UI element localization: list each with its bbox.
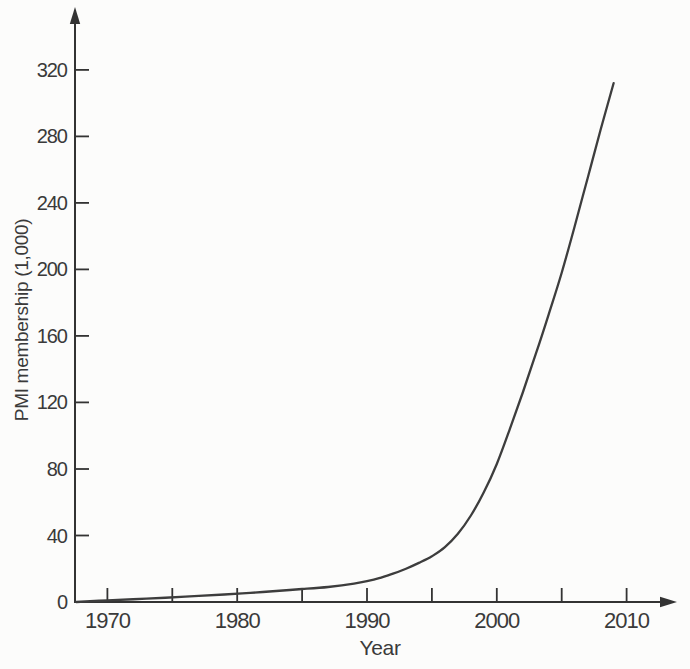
membership-curve xyxy=(76,83,613,602)
y-tick-label: 280 xyxy=(37,125,68,147)
pmi-membership-line-chart: 1970198019902000201004080120160200240280… xyxy=(0,0,690,669)
x-tick-label: 1990 xyxy=(345,608,391,633)
y-axis-arrow-icon xyxy=(70,7,80,24)
axes xyxy=(70,7,677,607)
x-tick-label: 2000 xyxy=(474,608,520,633)
x-tick-label: 1980 xyxy=(215,608,261,633)
x-tick-label: 2010 xyxy=(604,608,650,633)
y-tick-label: 120 xyxy=(37,391,68,413)
y-tick-label: 320 xyxy=(37,59,68,81)
x-axis-ticks: 19701980199020002010 xyxy=(85,588,650,633)
y-tick-label: 160 xyxy=(37,325,68,347)
y-axis-title: PMI membership (1,000) xyxy=(11,219,33,421)
y-tick-label: 0 xyxy=(57,591,68,613)
y-tick-label: 40 xyxy=(47,525,68,547)
y-tick-label: 80 xyxy=(47,458,68,480)
x-tick-label: 1970 xyxy=(85,608,131,633)
y-axis-ticks: 04080120160200240280320 xyxy=(37,59,89,613)
y-tick-label: 240 xyxy=(37,192,68,214)
x-axis-title: Year xyxy=(75,636,685,660)
y-tick-label: 200 xyxy=(37,258,68,280)
pmi-membership-figure: 1970198019902000201004080120160200240280… xyxy=(0,0,690,669)
x-axis-arrow-icon xyxy=(660,597,677,607)
